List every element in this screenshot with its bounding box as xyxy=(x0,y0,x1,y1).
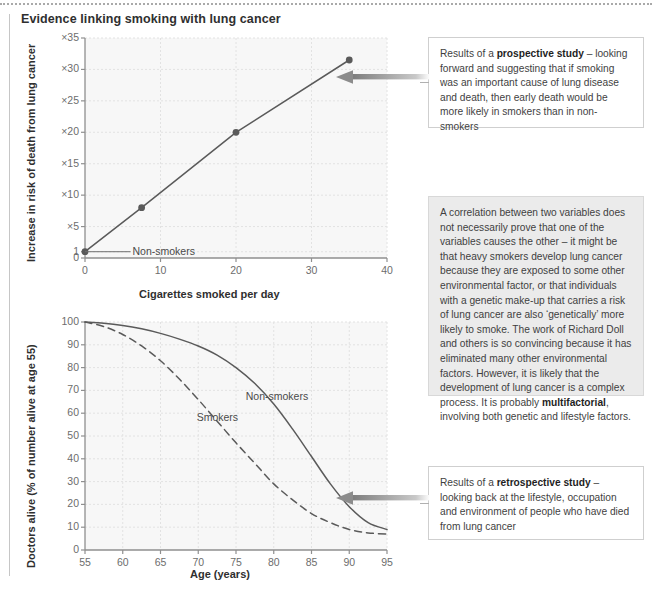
callout-retrospective-study: Results of a retrospective study – looki… xyxy=(428,466,644,540)
callout-correlation-seg-1: multifactorial xyxy=(542,397,606,408)
callout-prospective-seg-0: Results of a xyxy=(440,48,497,59)
chart1-data-point xyxy=(233,129,240,136)
callout-leader-prospective xyxy=(420,82,429,83)
page-root: Evidence linking smoking with lung cance… xyxy=(0,0,652,590)
arrow-to-chart1 xyxy=(336,68,430,86)
chart1-plot-svg xyxy=(0,0,420,310)
callout-leader-retrospective xyxy=(420,503,429,504)
callout-prospective-seg-1: prospective study xyxy=(497,48,584,59)
callout-retrospective-seg-0: Results of a xyxy=(440,477,497,488)
chart-doctors-alive-vs-age: Doctors alive (% of number alive at age … xyxy=(0,310,420,590)
callout-retrospective-seg-1: retrospective study xyxy=(497,477,591,488)
chart1-annotation-non-smokers: Non-smokers xyxy=(133,245,195,257)
callout-prospective-seg-2: – looking forward and suggesting that if… xyxy=(440,48,627,132)
chart2-plot-svg xyxy=(0,310,420,590)
chart1-data-point xyxy=(346,57,353,64)
callout-correlation-seg-0: A correlation between two variables does… xyxy=(440,207,631,408)
chart2-series-label-non-smokers: Non-smokers xyxy=(246,390,308,402)
callout-correlation-note: A correlation between two variables does… xyxy=(428,196,644,396)
chart-risk-vs-cigarettes: Increase in risk of death from lung canc… xyxy=(0,0,420,310)
chart2-series-label-smokers: Smokers xyxy=(197,411,238,423)
callout-prospective-study: Results of a prospective study – looking… xyxy=(428,37,644,128)
chart1-data-point xyxy=(138,204,145,211)
arrow-to-chart2 xyxy=(336,489,430,507)
